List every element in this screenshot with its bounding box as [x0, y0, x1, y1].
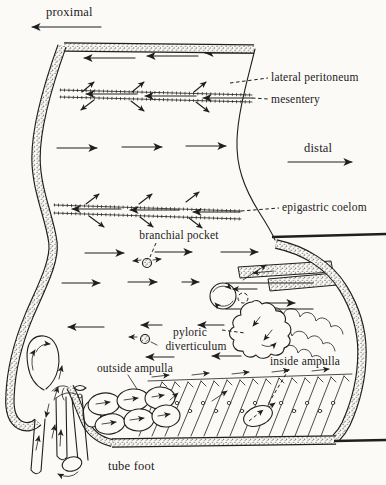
outside-ampulla-leader [128, 375, 137, 389]
lower-body-current-arrows [62, 252, 258, 357]
label-inside-ampulla: inside ampulla [270, 355, 340, 368]
branchial-pocket-opening [133, 259, 161, 268]
label-epigastric-coelom: epigastric coelom [282, 201, 367, 214]
label-tube-foot: tube foot [108, 459, 155, 473]
label-lateral-peritoneum: lateral peritoneum [271, 71, 359, 84]
body-wall-borders [10, 46, 386, 443]
figure-canvas: proximal lateral peritoneum mesentery di… [0, 0, 386, 485]
label-mesentery: mesentery [271, 93, 320, 106]
left-ampulla-lobe [27, 336, 59, 390]
epigastric-coelom-leader [241, 208, 279, 211]
label-branchial-pocket: branchial pocket [139, 229, 219, 242]
cut-line-lower [334, 440, 386, 441]
label-distal: distal [304, 141, 333, 155]
anatomy-diagram: proximal lateral peritoneum mesentery di… [0, 0, 386, 485]
label-outside-ampulla: outside ampulla [97, 362, 173, 375]
pyloric-diverticulum-opening [129, 335, 157, 346]
label-proximal: proximal [46, 5, 93, 19]
lateral-peritoneum-leader [230, 78, 268, 83]
mesentery-track [60, 82, 252, 112]
mesentery-leader [252, 98, 268, 99]
branchial-pocket-leader [150, 243, 156, 257]
epigastric-coelom-track [54, 192, 241, 228]
label-diverticulum: diverticulum [165, 340, 226, 352]
outside-ampulla-lobes [83, 386, 181, 436]
label-pyloric: pyloric [173, 326, 207, 339]
cut-line-upper [272, 234, 386, 237]
